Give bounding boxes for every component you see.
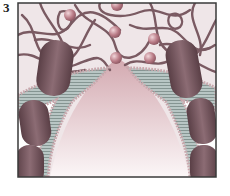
membrane-fusion-illustration bbox=[0, 0, 230, 196]
